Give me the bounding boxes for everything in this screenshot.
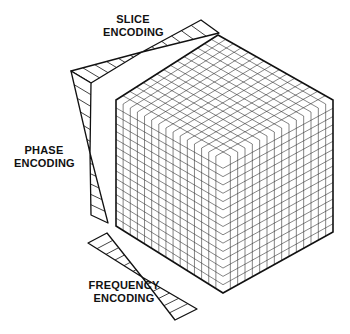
frequency-encoding-label: FREQUENCY ENCODING [84,279,164,305]
imaging-volume-cube [116,35,333,293]
slice-encoding-label: SLICE ENCODING [103,13,163,39]
phase-gradient-icon [71,71,108,223]
cube-grid [116,39,333,289]
phase-encoding-label: PHASE ENCODING [14,144,74,170]
frequency-gradient-icon [88,233,197,320]
